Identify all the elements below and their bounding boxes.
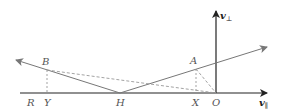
horizontal-axis-label: v∥ <box>259 97 268 110</box>
label-a: A <box>189 55 197 66</box>
label-y: Y <box>44 97 52 108</box>
dashed-a-to-o <box>196 69 216 93</box>
reflected-ray <box>120 47 267 93</box>
vertical-axis-label: v⊥ <box>220 10 232 23</box>
label-r: R <box>26 97 35 108</box>
label-b: B <box>41 56 49 67</box>
label-x: X <box>191 97 200 108</box>
label-o: O <box>212 97 220 108</box>
incident-ray <box>16 60 120 93</box>
label-h: H <box>115 97 125 108</box>
diagram-canvas: B A R Y H X O v⊥ v∥ <box>0 0 282 112</box>
